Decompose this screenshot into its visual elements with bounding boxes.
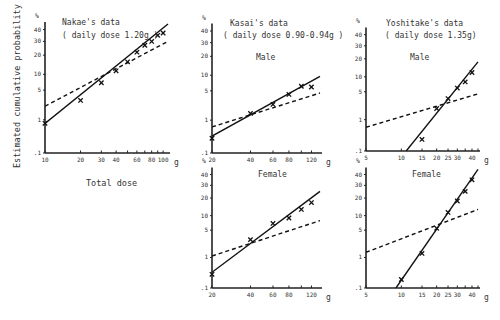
x-unit-label: g [326, 293, 331, 302]
data-point-marker [420, 137, 424, 141]
y-tick-label: 10 [34, 70, 42, 77]
y-tick-label: 30 [34, 37, 42, 44]
fitted-line [406, 62, 478, 151]
kasai-title: Kasai's data [230, 19, 288, 28]
x-tick-label: 40 [468, 291, 476, 298]
nakae-subtitle: ( daily dose 1.20g ) [62, 31, 158, 40]
x-unit-label: g [326, 158, 331, 167]
data-point-marker [161, 31, 165, 35]
x-tick-label: 10 [398, 291, 406, 298]
x-tick-label: 60 [133, 156, 141, 163]
x-tick-label: 40 [247, 291, 255, 298]
panel-yoshitake-female: .11510203040%5101520253040g [355, 157, 489, 302]
x-tick-label: 15 [418, 154, 426, 161]
y-unit-label: % [202, 14, 206, 22]
x-tick-label: 100 [158, 156, 169, 163]
x-unit-label: g [484, 293, 489, 302]
x-axis-label: Total dose [86, 178, 137, 188]
x-tick-label: 25 [444, 154, 452, 161]
x-tick-label: 30 [454, 154, 462, 161]
y-tick-label: 1 [358, 253, 362, 260]
x-tick-label: 60 [269, 291, 277, 298]
y-tick-label: 10 [355, 212, 363, 219]
x-tick-label: 15 [418, 291, 426, 298]
x-tick-label: 40 [468, 154, 476, 161]
y-tick-label: .1 [355, 284, 363, 291]
y-tick-label: 20 [201, 52, 209, 59]
y-tick-label: 30 [355, 181, 363, 188]
x-tick-label: 20 [433, 291, 441, 298]
x-tick-label: 120 [306, 291, 317, 298]
y-tick-label: 5 [204, 87, 208, 94]
expected-line [366, 94, 478, 127]
data-point-marker [309, 200, 313, 204]
x-tick-label: 30 [98, 156, 106, 163]
y-tick-label: 10 [201, 71, 209, 78]
x-tick-label: 30 [454, 291, 462, 298]
x-tick-label: 5 [364, 154, 368, 161]
expected-line [366, 209, 478, 252]
x-tick-label: 20 [208, 156, 216, 163]
data-point-marker [99, 81, 103, 85]
y-tick-label: 1 [204, 253, 208, 260]
x-unit-label: g [174, 158, 179, 167]
panel-kasai-female: .11510203040%20406080120g [201, 157, 331, 302]
y-unit-label: % [35, 12, 39, 20]
x-tick-label: 10 [41, 156, 49, 163]
y-axis-label: Estimated cumulative probability [12, 18, 22, 168]
x-tick-label: 40 [247, 156, 255, 163]
y-tick-label: 30 [201, 181, 209, 188]
yoshitake-female-label: Female [412, 170, 441, 179]
figure-canvas: .11510203040%102030406080100g.1151020304… [0, 0, 500, 320]
y-tick-label: .1 [201, 284, 209, 291]
x-tick-label: 80 [285, 291, 293, 298]
kasai-female-label: Female [258, 170, 287, 179]
y-tick-label: 40 [201, 27, 209, 34]
data-point-marker [78, 98, 82, 102]
y-tick-label: 5 [358, 88, 362, 95]
x-tick-label: 120 [306, 156, 317, 163]
y-unit-label: % [356, 17, 360, 25]
y-tick-label: .1 [34, 149, 42, 156]
data-point-marker [248, 237, 252, 241]
x-tick-label: 80 [285, 156, 293, 163]
y-tick-label: 5 [204, 226, 208, 233]
y-tick-label: 20 [34, 51, 42, 58]
y-tick-label: .1 [201, 149, 209, 156]
x-tick-label: 80 [148, 156, 156, 163]
yoshitake-male-label: Male [410, 53, 429, 62]
nakae-title: Nakae's data [62, 18, 120, 27]
y-tick-label: 10 [355, 73, 363, 80]
y-tick-label: 5 [37, 86, 41, 93]
y-tick-label: .1 [355, 147, 363, 154]
y-tick-label: 5 [358, 226, 362, 233]
fitted-line [396, 169, 478, 288]
x-unit-label: g [484, 156, 489, 165]
x-tick-label: 5 [364, 291, 368, 298]
y-tick-label: 20 [201, 194, 209, 201]
y-unit-label: % [202, 157, 206, 165]
expected-line [212, 93, 320, 127]
y-tick-label: 1 [358, 116, 362, 123]
y-tick-label: 30 [355, 42, 363, 49]
y-tick-label: 40 [355, 171, 363, 178]
x-tick-label: 20 [433, 154, 441, 161]
fitted-line [212, 76, 320, 136]
kasai-subtitle: ( daily dose 0.90-0.94g ) [223, 31, 343, 40]
y-unit-label: % [356, 157, 360, 165]
fitted-line [212, 191, 320, 272]
y-tick-label: 30 [201, 39, 209, 46]
y-tick-label: 40 [201, 171, 209, 178]
expected-line [212, 221, 320, 256]
x-tick-label: 10 [398, 154, 406, 161]
x-tick-label: 40 [112, 156, 120, 163]
y-tick-label: 20 [355, 194, 363, 201]
x-tick-label: 20 [77, 156, 85, 163]
y-tick-label: 40 [355, 31, 363, 38]
y-tick-label: 10 [201, 212, 209, 219]
x-tick-label: 25 [444, 291, 452, 298]
y-tick-label: 40 [34, 26, 42, 33]
y-tick-label: 1 [204, 116, 208, 123]
x-tick-label: 60 [269, 156, 277, 163]
y-tick-label: 20 [355, 55, 363, 62]
